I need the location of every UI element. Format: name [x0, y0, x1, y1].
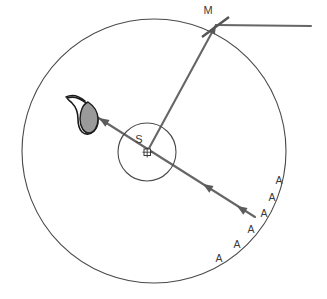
- label-mirror: M: [203, 4, 212, 16]
- label-source: S: [135, 133, 142, 145]
- label-aperture-4: A: [247, 223, 254, 235]
- mirror-ray: [147, 25, 216, 152]
- incoming-ray: [97, 117, 255, 217]
- eye-lens: [80, 102, 98, 133]
- label-aperture-6: A: [215, 252, 222, 264]
- horizontal-ray: [216, 25, 311, 26]
- label-aperture-3: A: [260, 207, 267, 219]
- optics-diagram: S M A A A A A A: [0, 0, 327, 299]
- diagram-canvas: S M A A A A A A: [0, 0, 327, 299]
- arrowhead-mid-ray: [201, 181, 214, 193]
- label-aperture-1: A: [275, 174, 282, 186]
- observer-eye: [66, 96, 98, 135]
- outer-circle: [22, 19, 286, 283]
- source-marker: [143, 148, 153, 158]
- label-aperture-5: A: [233, 238, 240, 250]
- label-aperture-2: A: [268, 191, 275, 203]
